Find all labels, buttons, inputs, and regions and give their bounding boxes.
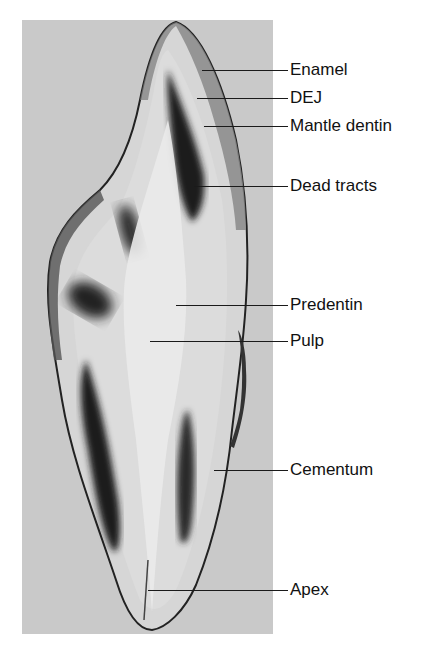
label-dej: DEJ: [290, 88, 322, 108]
label-pulp: Pulp: [290, 331, 324, 351]
label-dead-tracts: Dead tracts: [290, 176, 377, 196]
micrograph-panel: [22, 20, 273, 634]
label-apex: Apex: [290, 580, 329, 600]
dej-leader-line: [197, 98, 288, 99]
label-predentin: Predentin: [290, 295, 363, 315]
predentin-leader-line: [176, 305, 288, 306]
label-cementum: Cementum: [290, 460, 373, 480]
enamel-leader-line: [202, 70, 288, 71]
label-mantle-dentin: Mantle dentin: [290, 116, 392, 136]
pulp-leader-line: [150, 341, 288, 342]
dead-tracts-leader-line: [194, 186, 288, 187]
label-enamel: Enamel: [290, 60, 348, 80]
apex-leader-line: [148, 590, 288, 591]
tooth-section-image: [22, 20, 273, 634]
cementum-leader-line: [214, 470, 288, 471]
mantle-dentin-leader-line: [204, 126, 288, 127]
